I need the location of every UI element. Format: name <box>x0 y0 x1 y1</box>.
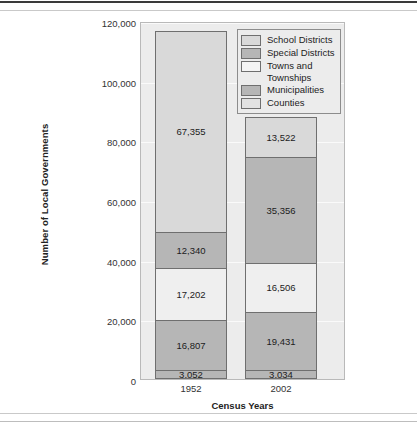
x-tick-label-2002: 2002 <box>245 383 317 394</box>
legend-swatch-icon <box>241 61 261 72</box>
bar-segment-value: 16,807 <box>176 341 205 351</box>
bar-segment-value: 3,034 <box>269 370 293 379</box>
bar-segment-value: 13,522 <box>266 133 295 143</box>
bar-segment[interactable]: 35,356 <box>245 157 317 262</box>
page-rule-top <box>0 1 417 3</box>
legend-item-counties[interactable]: Counties <box>241 97 338 109</box>
bar-segment[interactable]: 3,034 <box>245 370 317 379</box>
legend-item-label: Special Districts <box>267 47 335 59</box>
legend-item-label: Counties <box>267 97 305 109</box>
bar-segment[interactable]: 16,506 <box>245 263 317 312</box>
y-tick-label: 120,000 <box>102 18 136 29</box>
legend-swatch-icon <box>241 98 261 109</box>
stacked-bar-chart: Number of Local Governments 020,00040,00… <box>0 14 417 410</box>
y-tick-label: 20,000 <box>107 316 136 327</box>
bar-segment[interactable]: 67,355 <box>155 31 227 232</box>
y-tick-label: 0 <box>131 376 136 387</box>
bar-segment-value: 17,202 <box>176 290 205 300</box>
bar-segment-value: 67,355 <box>176 127 205 137</box>
x-tick-label-1952: 1952 <box>155 383 227 394</box>
bar-segment[interactable]: 12,340 <box>155 232 227 269</box>
bar-segment-value: 35,356 <box>266 206 295 216</box>
bar-segment[interactable]: 3,052 <box>155 370 227 379</box>
chart-legend: School DistrictsSpecial DistrictsTowns a… <box>237 29 341 114</box>
page-rule-top-light <box>0 10 417 11</box>
bar-segment[interactable]: 19,431 <box>245 312 317 370</box>
bar-segment[interactable]: 17,202 <box>155 268 227 319</box>
bar-segment-value: 16,506 <box>266 283 295 293</box>
bar-segment-value: 19,431 <box>266 337 295 347</box>
bar-2002[interactable]: 13,52235,35616,50619,4313,034 <box>245 117 317 379</box>
legend-item-label: Towns and Townships <box>267 60 338 83</box>
page-rule-bottom-light <box>0 413 417 414</box>
legend-item-school-districts[interactable]: School Districts <box>241 34 338 46</box>
legend-swatch-icon <box>241 35 261 46</box>
y-tick-label: 100,000 <box>102 77 136 88</box>
page-rule-bottom <box>0 421 417 422</box>
bar-segment-value: 12,340 <box>176 246 205 256</box>
legend-item-label: Municipalities <box>267 84 324 96</box>
y-tick-label: 60,000 <box>107 197 136 208</box>
y-axis-title: Number of Local Governments <box>39 100 50 290</box>
legend-swatch-icon <box>241 48 261 59</box>
bar-segment-value: 3,052 <box>179 370 203 379</box>
bar-1952[interactable]: 67,35512,34017,20216,8073,052 <box>155 31 227 379</box>
y-tick-label: 40,000 <box>107 256 136 267</box>
gridline <box>141 23 344 24</box>
legend-item-municipalities[interactable]: Municipalities <box>241 84 338 96</box>
legend-item-label: School Districts <box>267 34 332 46</box>
legend-item-towns-and-townships[interactable]: Towns and Townships <box>241 60 338 83</box>
bar-segment[interactable]: 16,807 <box>155 320 227 370</box>
plot-area: 020,00040,00060,00080,000100,000120,000 … <box>140 22 345 380</box>
x-axis-title: Census Years <box>140 400 345 411</box>
bar-segment[interactable]: 13,522 <box>245 117 317 157</box>
chart-page: Number of Local Governments 020,00040,00… <box>0 0 417 425</box>
y-tick-label: 80,000 <box>107 137 136 148</box>
legend-swatch-icon <box>241 85 261 96</box>
legend-item-special-districts[interactable]: Special Districts <box>241 47 338 59</box>
